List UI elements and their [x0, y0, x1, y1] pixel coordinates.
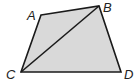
vertex-label-a: A — [26, 8, 36, 23]
quadrilateral-abdc — [21, 6, 121, 72]
vertex-label-b: B — [103, 0, 112, 15]
vertex-label-c: C — [6, 67, 16, 82]
quadrilateral-diagram: A B C D — [0, 0, 135, 83]
vertex-label-d: D — [124, 67, 133, 82]
